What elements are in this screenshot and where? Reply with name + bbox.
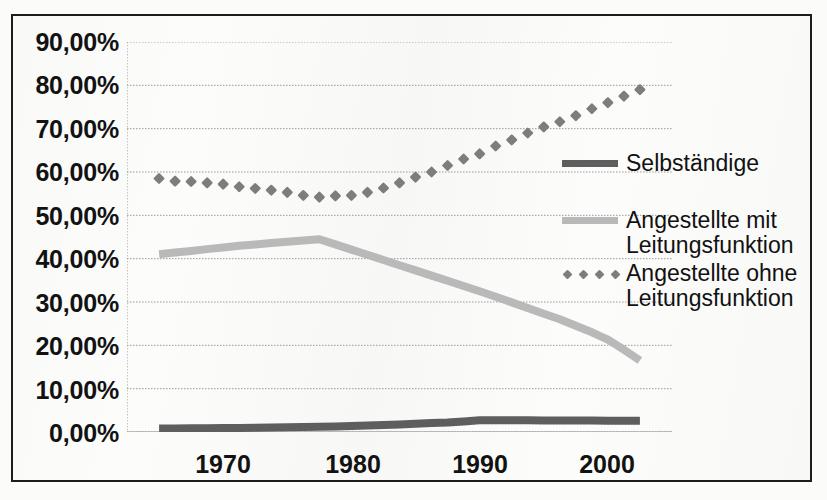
y-tick-label: 20,00%: [35, 334, 119, 359]
legend-swatch-solid-light-icon: [560, 207, 622, 233]
y-axis-tick-labels: 90,00% 80,00% 70,00% 60,00% 50,00% 40,00…: [14, 0, 119, 500]
legend-item-angestellte-mit-leitungsfunktion[interactable]: Angestellte mit: [560, 207, 810, 234]
y-tick-label: 30,00%: [35, 291, 119, 316]
y-tick-label: 0,00%: [49, 421, 119, 446]
y-tick-label: 90,00%: [35, 30, 119, 55]
y-tick-label: 70,00%: [35, 117, 119, 142]
legend-label: Angestellte ohne: [626, 260, 797, 287]
legend-label-line2: Leitungsfunktion: [626, 233, 810, 259]
legend-label: Angestellte mit: [626, 207, 777, 234]
legend-swatch-solid-dark-icon: [560, 150, 622, 176]
y-tick-label: 40,00%: [35, 247, 119, 272]
x-tick-label: 1990: [445, 452, 515, 477]
chart-page: 90,00% 80,00% 70,00% 60,00% 50,00% 40,00…: [0, 0, 827, 500]
y-tick-label: 80,00%: [35, 73, 119, 98]
y-tick-label: 60,00%: [35, 160, 119, 185]
legend-item-selbstaendige[interactable]: Selbständige: [560, 150, 810, 177]
x-tick-label: 2000: [572, 452, 642, 477]
x-tick-label: 1970: [188, 452, 258, 477]
x-tick-label: 1980: [318, 452, 388, 477]
y-tick-label: 50,00%: [35, 204, 119, 229]
legend-label-line2: Leitungsfunktion: [626, 286, 810, 312]
chart-legend: Selbständige Angestellte mit Leitungsfun…: [560, 150, 810, 314]
legend-item-angestellte-ohne-leitungsfunktion[interactable]: Angestellte ohne: [560, 260, 810, 287]
legend-swatch-dotted-icon: [560, 260, 622, 286]
y-tick-label: 10,00%: [35, 378, 119, 403]
legend-label: Selbständige: [626, 150, 759, 177]
